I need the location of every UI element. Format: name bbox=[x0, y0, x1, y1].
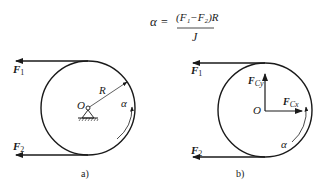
label-alpha-a: α bbox=[121, 98, 127, 109]
caption-b: b) bbox=[236, 169, 244, 179]
formula-denominator: J bbox=[192, 31, 197, 43]
panel-a bbox=[16, 61, 135, 155]
label-center-o-a: O bbox=[77, 100, 85, 111]
label-f2-b: F2 bbox=[191, 145, 202, 158]
caption-a: a) bbox=[81, 169, 89, 179]
formula-equals: = bbox=[161, 16, 168, 28]
formula-numerator: (F₁−F₂)R bbox=[176, 12, 219, 23]
label-radius-r: R bbox=[99, 85, 106, 96]
formula-alpha: α bbox=[150, 15, 157, 28]
label-fcx: FCx bbox=[283, 97, 299, 109]
label-f1-b: F1 bbox=[191, 65, 202, 78]
angular-accel-arc-a bbox=[117, 107, 132, 139]
pin-support-triangle bbox=[82, 110, 94, 118]
label-alpha-b: α bbox=[281, 139, 287, 150]
label-f1-a: F1 bbox=[13, 64, 24, 77]
label-fcy: FCy bbox=[248, 76, 264, 88]
label-center-o-b: O bbox=[253, 105, 261, 116]
label-f2-a: F2 bbox=[13, 141, 24, 154]
